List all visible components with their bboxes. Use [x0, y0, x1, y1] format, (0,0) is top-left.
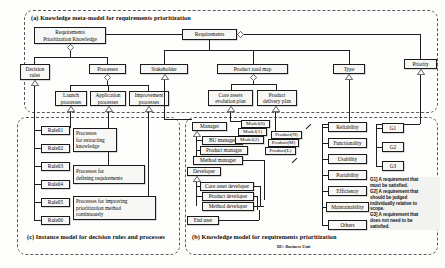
- link-improvement-to-instance: [148, 112, 149, 206]
- region-meta-model-caption: (a) Knowledge meta-model for requirement…: [31, 14, 191, 22]
- box-product-road-map: Product road map: [217, 64, 288, 74]
- box-core-assets-evolution-plan: Core assets evolution plan: [208, 90, 253, 106]
- box-model-0: Model(0): [241, 120, 270, 128]
- box-product-delivery-plan: Product delivery plan: [257, 90, 297, 106]
- link-to-decision-rules: [34, 57, 35, 64]
- link-requirements-to-priority-h: [244, 34, 421, 35]
- box-others: Others: [328, 220, 367, 230]
- link-stakeholder-down: [164, 80, 165, 119]
- link-root-to-requirements: [106, 34, 182, 35]
- link-requirements-branch: [164, 50, 350, 51]
- box-stakeholder: Stakeholder: [140, 64, 188, 74]
- link-others: [322, 225, 328, 226]
- region-instance-model-caption: (c) Instance model for decision rules an…: [27, 233, 165, 241]
- box-rule-06: Rule06: [41, 216, 70, 225]
- generalization-triangle-application-processes: [105, 106, 112, 111]
- box-model-2: Model(2): [235, 136, 264, 144]
- link-stakeholder-into-b: [164, 119, 192, 120]
- link-rule-01: [34, 130, 41, 131]
- box-rule-04: Rule04: [41, 180, 70, 189]
- link-portability: [322, 175, 328, 176]
- link-rule-02: [34, 148, 41, 149]
- box-product-m: Product(M): [268, 139, 299, 147]
- box-rule-03: Rule03: [41, 162, 70, 171]
- box-rule-01: Rule01: [41, 126, 70, 135]
- generalization-triangle-stakeholder: [161, 74, 168, 79]
- box-end-user: End user: [187, 216, 219, 225]
- link-to-product-road-map: [253, 50, 254, 64]
- box-usability: Usability: [328, 154, 367, 164]
- box-rule-05: Rule05: [41, 198, 70, 207]
- generalization-triangle-manager: [193, 131, 200, 136]
- box-g2: G2: [382, 142, 404, 152]
- box-product-l: Product(L): [265, 147, 296, 155]
- rail-method-developer: [254, 206, 264, 207]
- rail-method-manager: [243, 160, 264, 161]
- link-core-assets-plan-down: [230, 112, 231, 121]
- generalization-triangle-improvement-processes: [145, 106, 152, 111]
- box-requirements: Requirements: [182, 29, 237, 40]
- link-root-branch: [34, 57, 107, 58]
- link-usability: [322, 159, 328, 160]
- footnote-bu: BU: Business Unit: [277, 244, 310, 249]
- box-application-processes: Application processes: [90, 91, 126, 106]
- rail-end-user: [219, 220, 259, 221]
- link-rule-03: [34, 166, 41, 167]
- box-product-developer: Product developer: [202, 192, 254, 201]
- rail-core-asset-developer-v: [260, 186, 261, 206]
- link-rule-04: [34, 184, 41, 185]
- rail-product-developer-v: [257, 196, 258, 210]
- generalization-triangle-priority: [417, 69, 424, 74]
- box-product-n: Product(N): [271, 131, 302, 139]
- generalization-triangle-core-assets-plan: [227, 106, 234, 111]
- aggregation-diamond-road-map: [250, 74, 256, 81]
- grade-description-note: G1] A requirement that must be satisfied…: [370, 177, 440, 230]
- link-to-type: [349, 50, 350, 64]
- link-rule-05: [34, 202, 41, 203]
- box-requirements-prioritization-knowledge: Requirements Prioritization Knowledge: [34, 27, 106, 44]
- link-process-branch: [70, 85, 148, 86]
- link-type-down: [349, 80, 350, 124]
- generalization-triangle-developer: [193, 176, 200, 181]
- box-improvement-processes: Improvement processes: [129, 91, 169, 106]
- link-launch-to-instance: [70, 112, 71, 128]
- box-functionality: Functionality: [328, 138, 367, 148]
- region-knowledge-model-caption: (b) Knowledge model for requirements pri…: [192, 233, 336, 241]
- aggregation-diamond-processes: [104, 74, 110, 81]
- link-rule-06: [34, 220, 41, 221]
- box-portability: Portability: [328, 170, 367, 180]
- link-road-map-branch: [231, 84, 276, 85]
- box-reliability: Reliability: [328, 122, 367, 132]
- link-requirements-to-priority-v: [420, 34, 421, 59]
- box-rule-02: Rule02: [41, 144, 70, 153]
- figure-canvas: (a) Knowledge meta-model for requirement…: [0, 0, 445, 268]
- link-product-delivery-plan-down: [275, 112, 276, 131]
- box-method-developer: Method developer: [202, 202, 254, 211]
- box-developer: Developer: [187, 167, 221, 176]
- link-maintainability: [322, 207, 326, 208]
- box-model-1: Model(1): [238, 128, 267, 136]
- generalization-triangle-launch-processes: [67, 106, 74, 111]
- box-decision-rules: Decision rules: [20, 64, 50, 80]
- box-manager: Manager: [192, 122, 227, 131]
- box-method-manager: Method manager: [193, 156, 243, 165]
- link-requirements-down: [209, 40, 210, 50]
- box-processes-extracting-knowledge: Processes for extracting knowledge: [73, 128, 117, 152]
- link-grade-spine: [376, 124, 377, 166]
- generalization-triangle-decision-rules: [31, 80, 38, 85]
- link-to-stakeholder: [164, 50, 165, 64]
- link-rules-spine: [34, 86, 35, 190]
- link-functionality: [322, 143, 328, 144]
- box-processes-defining-requirements: Processes for defining requirements: [73, 165, 145, 184]
- box-product-manager: Product manager: [200, 146, 248, 155]
- box-processes-improving-prioritization: Processes for improving prioritization m…: [73, 196, 156, 220]
- box-launch-processes: Launch processes: [55, 91, 87, 106]
- box-processes: Processes: [89, 64, 126, 74]
- rail-method-manager-v: [264, 160, 265, 200]
- box-maintainability: Maintainability: [326, 202, 369, 212]
- generalization-triangle-product-delivery-plan: [272, 106, 279, 111]
- link-reliability: [322, 127, 328, 128]
- generalization-triangle-type: [345, 74, 352, 79]
- box-core-asset-developer: Core asset developer: [200, 182, 254, 191]
- link-rules-spine-lower: [34, 190, 35, 221]
